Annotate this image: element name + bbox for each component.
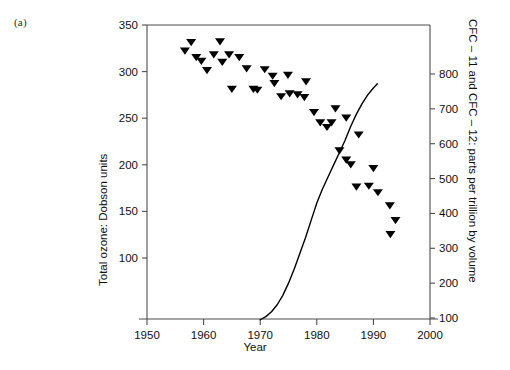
ozone-marker (217, 59, 227, 66)
x-tick-label: 1970 (247, 329, 273, 341)
ozone-marker (322, 124, 332, 131)
ozone-marker (385, 231, 395, 238)
ozone-marker (276, 93, 286, 100)
ozone-marker (202, 67, 212, 74)
y-tick-label-right: 700 (439, 103, 458, 115)
ozone-marker (209, 51, 219, 58)
ozone-marker (268, 73, 278, 80)
ozone-marker (354, 131, 364, 138)
ozone-marker (385, 202, 395, 209)
y-tick-label-right: 800 (439, 68, 458, 80)
cfc-line-path (260, 84, 377, 320)
x-tick-label: 1990 (361, 329, 387, 341)
y-axis-right-ticks: 100200300400500600700800 (430, 68, 458, 324)
y-tick-label-right: 100 (439, 312, 458, 324)
ozone-marker (196, 58, 206, 65)
ozone-marker (330, 105, 340, 112)
x-tick-label: 1960 (191, 329, 217, 341)
y-tick-label-left: 300 (119, 66, 138, 78)
y-tick-label-left: 150 (119, 205, 138, 217)
x-tick-label: 2000 (417, 329, 443, 341)
y-tick-label-right: 300 (439, 242, 458, 254)
ozone-marker (234, 54, 244, 61)
ozone-marker (368, 165, 378, 172)
ozone-marker (180, 48, 190, 55)
chart-canvas: 100150200250300350 100200300400500600700… (0, 0, 510, 370)
ozone-marker (227, 86, 237, 93)
ozone-marker (224, 51, 234, 58)
ozone-marker (283, 72, 293, 79)
axis-frame (139, 25, 438, 319)
ozone-marker (390, 217, 400, 224)
figure-panel: (a) Total ozone: Dobson units CFC – 11 a… (0, 0, 510, 370)
y-tick-label-right: 600 (439, 138, 458, 150)
ozone-marker (351, 184, 361, 191)
ozone-marker (242, 65, 252, 72)
ozone-marker (269, 80, 279, 87)
y-tick-label-right: 200 (439, 277, 458, 289)
cfc-trend-line (260, 84, 377, 320)
x-tick-label: 1950 (134, 329, 160, 341)
ozone-marker (346, 161, 356, 168)
ozone-marker (215, 38, 225, 45)
y-tick-label-left: 350 (119, 19, 138, 31)
y-axis-left-ticks: 100150200250300350 (119, 19, 147, 264)
ozone-marker (364, 183, 374, 190)
ozone-marker (334, 147, 344, 154)
ozone-marker (186, 39, 196, 46)
x-axis-ticks: 195019601970198019902000 (134, 319, 443, 341)
y-tick-label-right: 400 (439, 207, 458, 219)
x-tick-label: 1980 (304, 329, 330, 341)
y-tick-label-left: 250 (119, 112, 138, 124)
y-tick-label-left: 200 (119, 159, 138, 171)
ozone-marker (260, 66, 270, 73)
ozone-marker (309, 109, 319, 116)
ozone-marker (341, 115, 351, 122)
ozone-marker (373, 189, 383, 196)
y-tick-label-right: 500 (439, 173, 458, 185)
ozone-data-points (180, 38, 401, 238)
ozone-marker (301, 78, 311, 85)
y-tick-label-left: 100 (119, 252, 138, 264)
ozone-marker (299, 94, 309, 101)
